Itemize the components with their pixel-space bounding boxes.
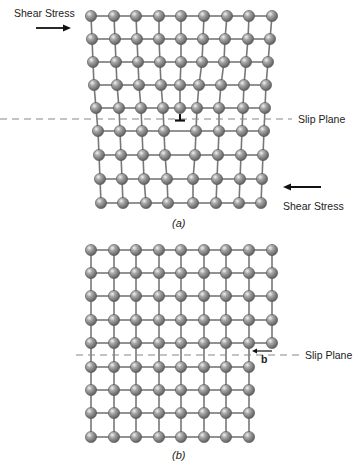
atom (95, 197, 106, 208)
atom (255, 197, 266, 208)
atom (243, 361, 254, 372)
atom (108, 407, 119, 418)
atom (153, 33, 164, 44)
atom (158, 125, 169, 136)
atom (116, 173, 127, 184)
atom (130, 314, 141, 325)
figure-caption-b: (b) (172, 449, 186, 461)
atom (175, 244, 186, 255)
atom (114, 125, 125, 136)
atom (85, 431, 96, 442)
atom (85, 267, 96, 278)
atom (85, 361, 96, 372)
atom (175, 56, 186, 67)
atom (130, 431, 141, 442)
atom (85, 337, 96, 348)
atom (86, 33, 97, 44)
figure-caption-a: (a) (172, 217, 186, 229)
atom (191, 102, 202, 113)
atom (175, 267, 186, 278)
atom (109, 33, 120, 44)
atom (189, 149, 200, 160)
atom (153, 267, 164, 278)
atom (262, 56, 273, 67)
atom (175, 314, 186, 325)
atom (215, 79, 226, 90)
atom (108, 431, 119, 442)
atom (266, 267, 277, 278)
atom (132, 56, 143, 67)
atom (221, 10, 232, 21)
atom (220, 337, 231, 348)
atom (108, 10, 119, 21)
atom (113, 102, 124, 113)
atom (234, 173, 245, 184)
atom (220, 267, 231, 278)
atom (130, 290, 141, 301)
atom (198, 407, 209, 418)
lattice-atoms (85, 244, 277, 442)
atom (85, 290, 96, 301)
atom (161, 173, 172, 184)
atom (258, 125, 269, 136)
atom (130, 10, 141, 21)
atom (236, 125, 247, 136)
shear-stress-label-top: Shear Stress (14, 7, 75, 19)
atom (153, 314, 164, 325)
atom (243, 314, 254, 325)
atom (243, 10, 254, 21)
atom (198, 290, 209, 301)
atom (157, 102, 168, 113)
atom (175, 337, 186, 348)
atom (108, 244, 119, 255)
atom (187, 173, 198, 184)
atom (108, 361, 119, 372)
atom (153, 10, 164, 21)
atom (115, 149, 126, 160)
atom (174, 102, 185, 113)
atom (220, 244, 231, 255)
atom (94, 173, 105, 184)
atom (219, 33, 230, 44)
atom (154, 56, 165, 67)
atom (218, 56, 229, 67)
atom (175, 290, 186, 301)
atom (187, 197, 198, 208)
atom (130, 337, 141, 348)
atom (90, 102, 101, 113)
atom (220, 407, 231, 418)
atom (135, 102, 146, 113)
atom (130, 361, 141, 372)
atom (198, 244, 209, 255)
atom (220, 384, 231, 395)
atom (130, 407, 141, 418)
atom (243, 384, 254, 395)
atom (159, 149, 170, 160)
atom (264, 33, 275, 44)
atom (174, 79, 185, 90)
atom (175, 33, 186, 44)
figure-a: Slip Plane Shear Stress Shear Stress (a) (0, 7, 345, 229)
atom (197, 33, 208, 44)
atom (88, 79, 99, 90)
atom (242, 33, 253, 44)
atom (211, 173, 222, 184)
atom (153, 384, 164, 395)
atom (198, 361, 209, 372)
atom (175, 10, 186, 21)
atom (85, 10, 96, 21)
atom (243, 407, 254, 418)
atom (220, 290, 231, 301)
atom (85, 407, 96, 418)
atom (212, 149, 223, 160)
dislocation-diagram: Slip Plane Shear Stress Shear Stress (a)… (0, 0, 364, 466)
arrow-right-icon (36, 25, 71, 32)
atom (240, 56, 251, 67)
atom (111, 79, 122, 90)
atom (175, 431, 186, 442)
atom (130, 244, 141, 255)
atom (198, 314, 209, 325)
atom (153, 244, 164, 255)
atom (175, 407, 186, 418)
atom (213, 125, 224, 136)
